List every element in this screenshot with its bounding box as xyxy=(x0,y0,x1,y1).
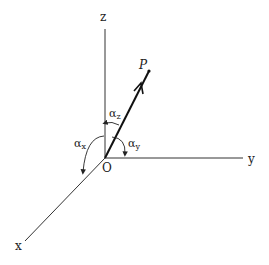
alpha-z-label: αz xyxy=(109,107,121,121)
x-axis xyxy=(25,158,105,241)
y-axis-label: y xyxy=(247,152,255,166)
alpha-x-label: αx xyxy=(74,137,86,151)
point-p-dot xyxy=(147,69,150,72)
x-axis-label: x xyxy=(15,239,22,253)
point-p-label: P xyxy=(138,58,148,72)
origin-label: O xyxy=(102,161,112,175)
z-axis-label: z xyxy=(100,10,106,24)
alpha-y-label: αy xyxy=(128,137,140,151)
alpha-x-arc xyxy=(83,136,104,172)
alpha-z-arc xyxy=(105,122,119,125)
diagram-canvas: z y x O P αz αy αx xyxy=(0,0,269,265)
